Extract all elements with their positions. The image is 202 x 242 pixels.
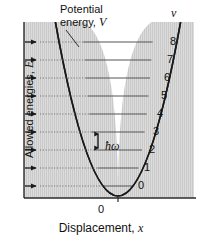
quantum-number-header: v (171, 7, 176, 19)
potential-energy-annotation-line2: energy, V (60, 16, 106, 29)
displacement-axis-title-text: Displacement, (59, 221, 138, 235)
origin-tick-label: 0 (0, 204, 202, 215)
energy-axis-title-text: Allowed energies, (23, 68, 35, 158)
quantum-number-label-4: 4 (153, 107, 167, 119)
quantum-number-label-8: 8 (166, 35, 180, 47)
quantum-number-label-0: 0 (134, 179, 148, 191)
energy-axis-symbol: E (22, 61, 36, 68)
quantum-number-label-3: 3 (149, 125, 163, 137)
quantum-oscillator-figure: Potential energy, V v 8 7 6 5 4 3 2 1 0 … (0, 0, 202, 242)
displacement-axis-title: Displacement, x (0, 222, 202, 234)
quantum-number-label-2: 2 (145, 143, 159, 155)
potential-energy-annotation: Potential energy, V (60, 3, 106, 29)
energy-axis-subscript: v (28, 57, 37, 61)
potential-energy-symbol: V (99, 15, 106, 29)
potential-energy-annotation-prefix: energy, (60, 16, 99, 28)
quantum-number-label-1: 1 (140, 161, 154, 173)
quantum-number-label-7: 7 (163, 53, 177, 65)
energy-axis-title: Allowed energies, Ev (22, 33, 37, 183)
quantum-number-label-5: 5 (157, 89, 171, 101)
level-spacing-label: ħω (105, 140, 119, 152)
quantum-number-label-6: 6 (160, 71, 174, 83)
displacement-axis-symbol: x (138, 221, 143, 235)
